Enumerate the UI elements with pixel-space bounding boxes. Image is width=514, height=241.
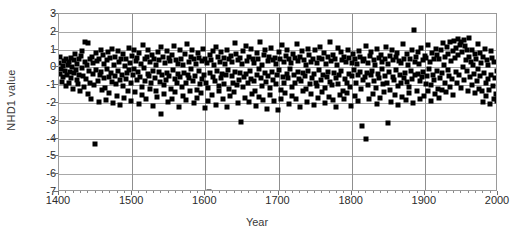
data-point xyxy=(303,62,308,67)
y-axis-title-text: NHD1 value xyxy=(5,69,17,130)
x-tick-mark-minor xyxy=(402,191,403,193)
x-tick-mark-minor xyxy=(475,191,476,193)
data-point xyxy=(476,67,481,72)
data-point xyxy=(414,54,419,59)
x-tick-mark-major xyxy=(351,191,352,195)
data-point xyxy=(458,85,463,90)
data-point xyxy=(464,68,469,73)
data-point xyxy=(444,90,449,95)
data-point xyxy=(315,84,320,89)
x-tick-mark-minor xyxy=(380,191,381,193)
y-tick-mark xyxy=(52,138,58,139)
data-point xyxy=(212,78,217,83)
data-point xyxy=(367,97,372,102)
y-tick-mark xyxy=(52,49,58,50)
data-point xyxy=(316,95,321,100)
data-point xyxy=(329,83,334,88)
data-point xyxy=(146,74,151,79)
data-point xyxy=(173,90,178,95)
data-point xyxy=(281,60,286,65)
data-point xyxy=(299,49,304,54)
data-point xyxy=(341,96,346,101)
data-point xyxy=(381,90,386,95)
data-point xyxy=(182,52,187,57)
data-point xyxy=(224,105,229,110)
data-point xyxy=(70,86,75,91)
data-point xyxy=(314,60,319,65)
data-point xyxy=(184,98,189,103)
x-tick-mark-minor xyxy=(241,191,242,193)
data-point xyxy=(136,101,141,106)
data-point xyxy=(490,84,495,89)
data-point xyxy=(234,83,239,88)
gridline-horizontal xyxy=(59,32,496,33)
data-point xyxy=(114,82,119,87)
x-tick-mark-minor xyxy=(373,191,374,193)
data-point xyxy=(294,97,299,102)
data-point xyxy=(354,81,359,86)
data-point xyxy=(486,62,491,67)
data-point xyxy=(272,99,277,104)
data-point xyxy=(334,105,339,110)
data-point xyxy=(122,95,127,100)
x-tick-mark-minor xyxy=(248,191,249,193)
data-point xyxy=(237,55,242,60)
data-point xyxy=(285,47,290,52)
data-point xyxy=(343,60,348,65)
x-tick-mark-minor xyxy=(343,191,344,193)
data-point xyxy=(444,44,449,49)
data-point xyxy=(330,98,335,103)
data-point xyxy=(230,60,235,65)
data-point xyxy=(392,92,397,97)
data-point xyxy=(210,49,215,54)
data-point xyxy=(384,80,389,85)
data-point xyxy=(86,41,91,46)
scatter-chart: NHD1 value 3210-1-2-3-4-5-6-7 1400150016… xyxy=(0,0,514,241)
data-point xyxy=(245,81,250,86)
data-point xyxy=(78,89,83,94)
x-tick-mark-major xyxy=(497,191,498,195)
data-point xyxy=(485,76,490,81)
data-point xyxy=(133,90,138,95)
data-point xyxy=(370,68,375,73)
data-point xyxy=(368,73,373,78)
data-point xyxy=(304,86,309,91)
data-point xyxy=(475,42,480,47)
x-tick-mark-minor xyxy=(175,191,176,193)
data-point xyxy=(239,119,244,124)
data-point xyxy=(415,50,420,55)
data-point xyxy=(99,69,104,74)
x-tick-mark-minor xyxy=(365,191,366,193)
data-point xyxy=(154,89,159,94)
data-point xyxy=(480,100,485,105)
data-point xyxy=(103,85,108,90)
data-point xyxy=(385,120,390,125)
data-point xyxy=(96,100,101,105)
data-point xyxy=(213,102,218,107)
data-point xyxy=(362,75,367,80)
data-point xyxy=(131,48,136,53)
data-point xyxy=(323,101,328,106)
data-point xyxy=(425,74,430,79)
data-point xyxy=(471,71,476,76)
data-point xyxy=(307,82,312,87)
data-point xyxy=(379,67,384,72)
data-point xyxy=(451,92,456,97)
x-tick-mark-minor xyxy=(212,191,213,193)
data-point xyxy=(399,81,404,86)
data-point xyxy=(293,81,298,86)
data-point xyxy=(373,62,378,67)
data-point xyxy=(84,62,89,67)
data-point xyxy=(409,47,414,52)
data-point xyxy=(223,73,228,78)
data-point xyxy=(147,86,152,91)
gridline-horizontal xyxy=(59,156,496,157)
data-point xyxy=(171,44,176,49)
x-tick-mark-minor xyxy=(446,191,447,193)
data-point xyxy=(462,77,467,82)
x-tick-label: 1500 xyxy=(119,194,143,206)
data-point xyxy=(351,52,356,57)
data-point xyxy=(220,97,225,102)
data-point xyxy=(78,53,83,58)
data-point xyxy=(247,68,252,73)
